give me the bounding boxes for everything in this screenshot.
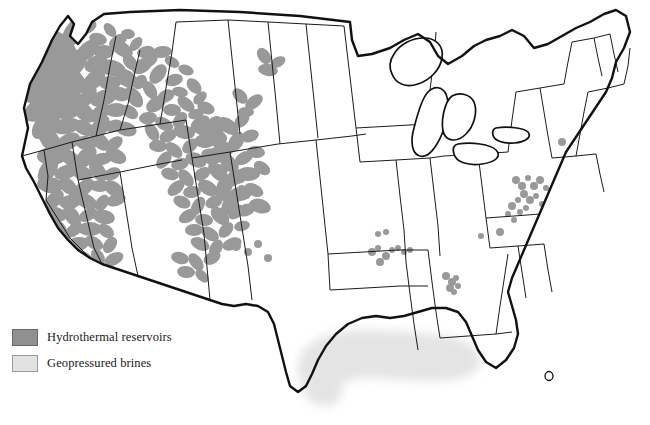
hydrothermal-dot xyxy=(375,231,381,237)
hydrothermal-dot xyxy=(517,209,523,215)
hydrothermal-dot xyxy=(518,182,526,190)
legend-item-hydrothermal: Hydrothermal reservoirs xyxy=(12,326,202,348)
hydrothermal-dot xyxy=(523,205,529,211)
legend-swatch-hydrothermal xyxy=(12,329,38,346)
lake-ontario xyxy=(493,127,530,143)
hydrothermal-dot xyxy=(231,241,241,251)
hydrothermal-dot xyxy=(254,240,262,248)
hydrothermal-dot xyxy=(508,202,516,210)
hydrothermal-dot xyxy=(264,254,272,262)
hydrothermal-dot xyxy=(478,233,484,239)
legend-label-hydrothermal: Hydrothermal reservoirs xyxy=(47,330,172,345)
hydrothermal-dot xyxy=(496,228,504,236)
hydrothermal-dot xyxy=(455,283,461,289)
lake-erie xyxy=(453,143,498,164)
hydrothermal-dot xyxy=(515,197,521,203)
hydrothermal-dot xyxy=(511,217,517,223)
hydrothermal-dot xyxy=(530,182,538,190)
hydrothermal-dot xyxy=(382,252,390,260)
hydrothermal-blob xyxy=(238,107,254,117)
lake-okeechobee xyxy=(545,372,553,381)
legend-swatch-geopressured xyxy=(12,355,38,372)
hydrothermal-dot xyxy=(525,175,531,181)
hydrothermal-dot xyxy=(442,272,450,280)
hydrothermal-dot xyxy=(543,185,549,191)
legend-item-geopressured: Geopressured brines xyxy=(12,352,202,374)
hydrothermal-dot xyxy=(512,176,520,184)
hydrothermal-dot xyxy=(526,196,534,204)
hydrothermal-dot xyxy=(558,138,566,146)
hydrothermal-dot xyxy=(533,193,539,199)
map-legend: Hydrothermal reservoirs Geopressured bri… xyxy=(12,326,202,378)
legend-label-geopressured: Geopressured brines xyxy=(47,356,151,371)
hydrothermal-dot xyxy=(453,275,459,281)
hydrothermal-dot xyxy=(536,176,544,184)
hydrothermal-dot xyxy=(375,245,381,251)
hydrothermal-dot xyxy=(520,190,528,198)
hydrothermal-dot xyxy=(376,258,384,266)
hydrothermal-dot xyxy=(451,289,457,295)
hydrothermal-dot xyxy=(383,229,389,235)
us-geothermal-resources-map: Hydrothermal reservoirs Geopressured bri… xyxy=(0,0,650,425)
